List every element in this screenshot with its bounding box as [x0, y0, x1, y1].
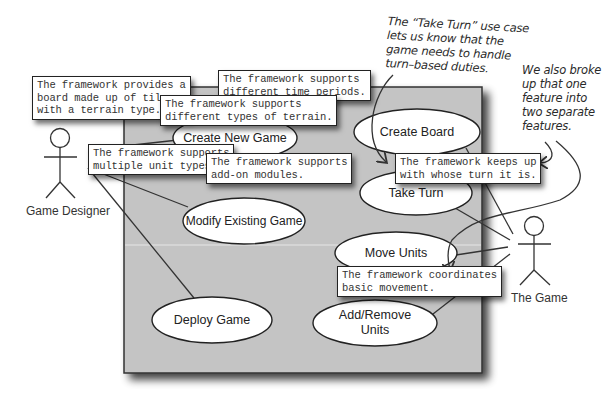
use-case-label: Add/Remove Units: [313, 308, 437, 338]
actor-label-the-game: The Game: [511, 291, 568, 305]
annotation-separate-features: We also broke up that one feature into t…: [522, 63, 601, 133]
annotation-take-turn: The “Take Turn” use case lets us know th…: [385, 14, 529, 77]
use-case-label: Take Turn: [360, 186, 472, 201]
note-whose-turn: The framework keeps up with whose turn i…: [395, 153, 541, 184]
use-case-diagram: Create New Game Modify Existing Game Dep…: [0, 0, 615, 398]
use-case-label: Create Board: [354, 125, 480, 140]
note-addon-modules: The framework supports add-on modules.: [206, 153, 352, 184]
actor-game-designer-figure[interactable]: [44, 129, 77, 199]
actor-head-icon: [525, 217, 544, 236]
note-terrain-types: The framework supports different types o…: [160, 95, 337, 126]
annotation-arrow-whose-turn: [540, 142, 552, 163]
note-basic-movement: The framework coordinates basic movement…: [337, 266, 502, 297]
actor-head-icon: [51, 129, 70, 148]
use-case-label: Deploy Game: [152, 313, 272, 328]
actor-label-game-designer: Game Designer: [26, 204, 110, 218]
actor-the-game-figure[interactable]: [518, 217, 551, 286]
use-case-label: Move Units: [335, 246, 457, 261]
use-case-label: Modify Existing Game: [183, 214, 305, 229]
